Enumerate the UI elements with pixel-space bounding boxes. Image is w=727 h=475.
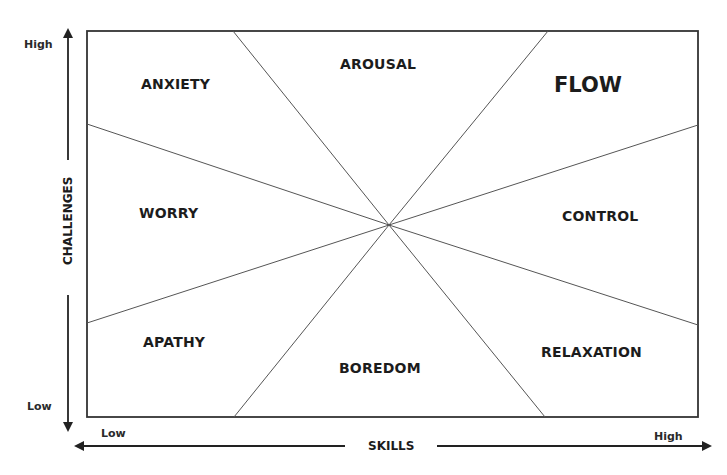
divider-line-bottom-right: [389, 225, 545, 417]
divider-line-bottom-left: [234, 225, 389, 417]
x-axis-high-label: High: [654, 430, 683, 443]
x-axis-low-label: Low: [101, 427, 126, 440]
state-label-worry: WORRY: [139, 205, 198, 221]
state-label-apathy: APATHY: [143, 334, 205, 350]
state-label-relaxation: RELAXATION: [541, 344, 642, 360]
state-label-anxiety: ANXIETY: [141, 76, 210, 92]
divider-line-left-lower: [87, 225, 389, 323]
state-label-control: CONTROL: [562, 208, 638, 224]
state-label-arousal: AROUSAL: [340, 56, 416, 72]
x-axis-title: SKILLS: [368, 439, 414, 453]
divider-line-left-upper: [87, 124, 389, 225]
y-axis-low-label: Low: [27, 400, 52, 413]
y-axis-title: CHALLENGES: [61, 185, 75, 265]
state-label-flow: FLOW: [554, 73, 622, 97]
state-label-boredom: BOREDOM: [339, 360, 421, 376]
divider-line-right-lower: [389, 225, 698, 325]
divider-line-right-upper: [389, 125, 698, 225]
y-axis-high-label: High: [24, 38, 53, 51]
